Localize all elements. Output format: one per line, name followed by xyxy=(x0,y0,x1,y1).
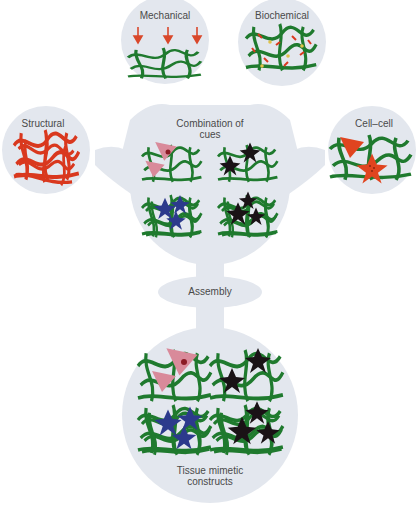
structural-label: Structural xyxy=(22,118,65,129)
result-label-line2: constructs xyxy=(177,476,243,487)
combination-label-line2: cues xyxy=(176,129,243,140)
mechanical-label: Mechanical xyxy=(140,10,191,21)
biochemical-label: Biochemical xyxy=(255,10,309,21)
result-label: Tissue mimetic constructs xyxy=(177,465,243,487)
assembly-label: Assembly xyxy=(188,286,231,297)
combination-label-line1: Combination of xyxy=(176,118,243,129)
cell-cell-label: Cell–cell xyxy=(355,118,393,129)
diagram-canvas xyxy=(0,0,420,506)
result-label-line1: Tissue mimetic xyxy=(177,465,243,476)
combination-label: Combination of cues xyxy=(176,118,243,140)
